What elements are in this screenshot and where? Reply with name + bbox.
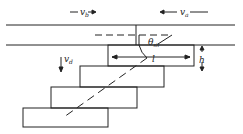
stepped-shear-diagram: vb va vd θsh l h xyxy=(0,0,243,134)
theta-label: θsh xyxy=(148,37,159,48)
step-block-3 xyxy=(51,87,137,108)
h-arrowhead-down xyxy=(200,67,204,71)
l-arrow-left xyxy=(112,55,117,59)
step-block-1 xyxy=(108,45,194,66)
va-arrowhead xyxy=(160,10,164,14)
vb-label: vb xyxy=(80,7,89,18)
vb-arrowhead xyxy=(92,10,96,14)
va-label: va xyxy=(180,7,189,18)
vd-label: vd xyxy=(64,54,73,65)
step-block-4 xyxy=(23,108,108,127)
shear-curve xyxy=(139,35,147,58)
shear-z-mark xyxy=(158,35,172,44)
h-arrowhead-up xyxy=(200,46,204,50)
step-block-2 xyxy=(80,66,164,87)
vd-arrowhead xyxy=(59,67,63,72)
l-arrow-right xyxy=(185,55,190,59)
l-label: l xyxy=(152,54,155,64)
h-label: h xyxy=(199,55,205,65)
